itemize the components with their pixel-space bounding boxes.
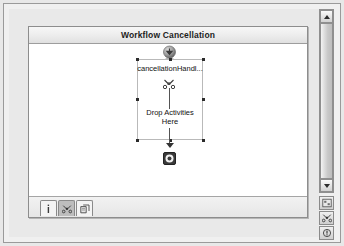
resize-handle-top-right[interactable] bbox=[202, 58, 205, 61]
connector-arrowhead-icon bbox=[166, 143, 174, 148]
info-icon bbox=[44, 204, 53, 214]
drop-activities-placeholder[interactable]: Drop Activities Here bbox=[133, 108, 207, 126]
resize-handle-top-middle[interactable] bbox=[169, 58, 172, 61]
workflow-panel-header: Workflow Cancellation bbox=[29, 27, 307, 44]
resize-handle-top-left[interactable] bbox=[136, 58, 139, 61]
resize-handle-bottom-left[interactable] bbox=[136, 139, 139, 142]
scroll-down-button[interactable] bbox=[320, 179, 333, 192]
resize-handle-middle-left[interactable] bbox=[136, 98, 139, 101]
tab-fault-handler[interactable] bbox=[76, 200, 93, 216]
workflow-canvas[interactable]: cancellationHandl... bbox=[29, 44, 307, 198]
corner-tool-1[interactable] bbox=[319, 196, 334, 210]
cancellation-handler-label[interactable]: cancellationHandl... bbox=[132, 64, 208, 73]
corner-tool-buttons bbox=[319, 196, 334, 241]
scrollbar-thumb[interactable] bbox=[320, 23, 333, 179]
workflow-view-tabstrip bbox=[29, 196, 307, 217]
workflow-diagram: cancellationHandl... bbox=[29, 44, 307, 198]
fault-handler-icon bbox=[80, 204, 90, 214]
resize-handle-middle-right[interactable] bbox=[202, 98, 205, 101]
tab-properties[interactable] bbox=[40, 200, 57, 216]
scroll-down-arrow-icon bbox=[324, 184, 330, 188]
cancel-handler-icon bbox=[62, 204, 72, 214]
connector-line-top bbox=[169, 88, 170, 109]
workflow-end-icon[interactable] bbox=[163, 151, 176, 164]
designer-canvas-viewport[interactable]: Workflow Cancellation bbox=[9, 9, 319, 237]
corner-tool-2[interactable] bbox=[319, 211, 334, 225]
drop-activities-line-1: Drop Activities bbox=[133, 108, 207, 117]
cancellation-handler-icon bbox=[163, 75, 175, 85]
scroll-up-arrow-icon bbox=[324, 15, 330, 19]
vertical-scrollbar[interactable] bbox=[319, 9, 334, 193]
page-title: Workflow Cancellation bbox=[121, 30, 215, 40]
scroll-up-button[interactable] bbox=[320, 10, 333, 23]
cancel-handler-view-icon bbox=[322, 213, 332, 223]
fault-handler-view-icon bbox=[322, 228, 332, 238]
designer-view-icon bbox=[322, 198, 332, 208]
tab-group bbox=[40, 200, 94, 216]
application-frame: Workflow Cancellation bbox=[3, 3, 341, 243]
workflow-designer-panel[interactable]: Workflow Cancellation bbox=[28, 26, 308, 218]
drop-activities-line-2: Here bbox=[133, 117, 207, 126]
resize-handle-bottom-right[interactable] bbox=[202, 139, 205, 142]
tab-cancel-handler[interactable] bbox=[58, 200, 75, 216]
corner-tool-3[interactable] bbox=[319, 226, 334, 240]
screenshot-root: Workflow Cancellation bbox=[0, 0, 344, 246]
